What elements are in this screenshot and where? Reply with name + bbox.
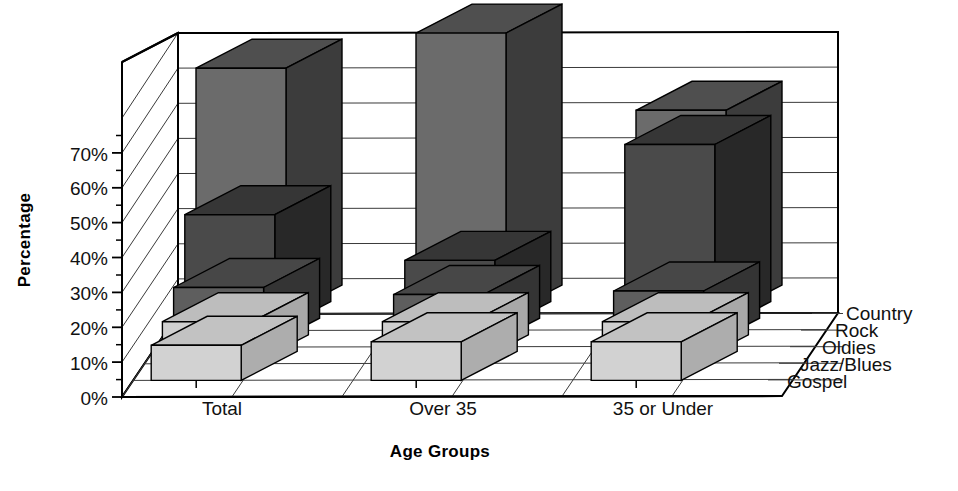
y-tick-label-10: 10% <box>70 353 108 374</box>
depth-label-gospel: Gospel <box>787 371 847 392</box>
y-tick-label-0: 0% <box>81 388 109 409</box>
y-tick-label-40: 40% <box>70 248 108 269</box>
bar-chart-3d: 70% 60% 50% 40% 30% 20% 10% 0% <box>0 0 958 491</box>
x-tick-label-35orunder: 35 or Under <box>613 398 714 419</box>
y-axis-title: Percentage <box>15 193 34 288</box>
y-tick-label-60: 60% <box>70 178 108 199</box>
x-tick-label-total: Total <box>202 398 242 419</box>
y-tick-label-50: 50% <box>70 213 108 234</box>
y-tick-label-30: 30% <box>70 283 108 304</box>
x-tick-label-over35: Over 35 <box>409 398 477 419</box>
chart-container: 70% 60% 50% 40% 30% 20% 10% 0% <box>0 0 958 491</box>
y-tick-label-20: 20% <box>70 318 108 339</box>
y-tick-label-70: 70% <box>70 144 108 165</box>
x-axis-title: Age Groups <box>390 442 490 461</box>
